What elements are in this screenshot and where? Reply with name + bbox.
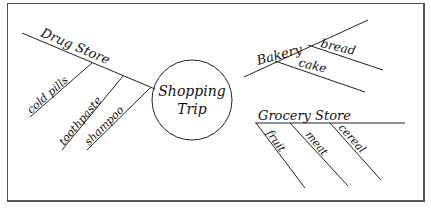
branch-label-drug-store: Drug Store: [38, 25, 113, 68]
item-label-cold-pills: cold pills: [24, 73, 71, 116]
center-label-line2: Trip: [177, 101, 207, 117]
item-label-meat: meat: [303, 129, 331, 159]
mind-map: Shopping Trip Drug Store cold pills toot…: [0, 0, 431, 208]
branch-label-grocery-store: Grocery Store: [258, 108, 351, 123]
branch-line-drug-store: [22, 33, 155, 89]
sub-line-fruit: [256, 123, 305, 188]
item-label-fruit: fruit: [263, 126, 289, 155]
center-node-circle: [152, 60, 232, 140]
branch-label-bakery: Bakery: [254, 41, 304, 68]
item-label-cereal: cereal: [336, 121, 369, 156]
center-label-line1: Shopping: [158, 83, 225, 99]
item-label-cake: cake: [297, 55, 328, 75]
